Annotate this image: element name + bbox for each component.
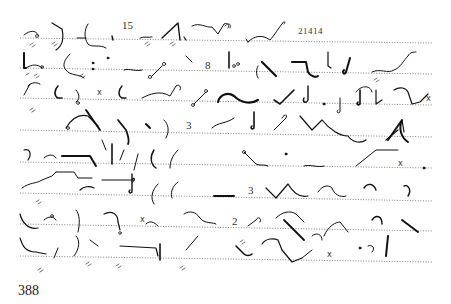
numeral-8: 8 [205,60,211,71]
ruled-lines [20,38,432,262]
numeral-2: 2 [232,216,238,227]
numeral-15: 15 [122,20,133,31]
outlines [20,22,428,272]
x-marker: x [97,88,102,97]
numeral-21414: 21414 [298,27,323,36]
x-marker: x [327,250,332,259]
numeral-3: 3 [186,120,192,131]
x-marker: x [140,215,145,224]
shorthand-strokes [0,0,451,304]
x-marker: x [398,159,403,168]
x-marker: x [426,94,431,103]
shorthand-page: 15 21414 8 3 3 2 x x x x x 388 [0,0,451,304]
page-number: 388 [18,283,39,299]
numeral-3-second: 3 [248,185,254,196]
